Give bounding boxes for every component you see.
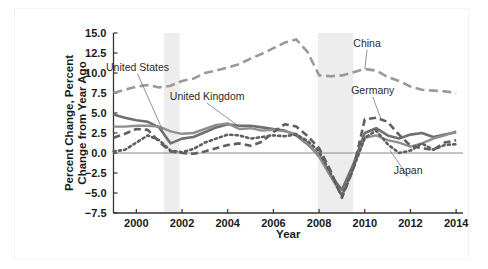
chart-figure: 15.012.510.07.55.02.50.0−2.5−5.0−7.5 200… <box>0 0 488 269</box>
x-tick-label: 2014 <box>444 217 469 229</box>
annotation-united-kingdom: United Kingdom <box>170 90 245 102</box>
x-tick-label: 2002 <box>170 217 194 229</box>
y-tick-label: 5.0 <box>91 107 106 119</box>
y-tick-label: 7.5 <box>91 87 106 99</box>
annotation-china: China <box>353 37 381 49</box>
y-axis-title: Percent Change, Percent <box>63 55 75 191</box>
recession-bands <box>164 33 354 213</box>
y-tick-label: 15.0 <box>85 27 106 39</box>
y-tick-labels: 15.012.510.07.55.02.50.0−2.5−5.0−7.5 <box>85 27 107 219</box>
y-tick-label: −2.5 <box>85 167 107 179</box>
annotation-united-states: United States <box>106 61 169 73</box>
x-tick-label: 2008 <box>307 217 331 229</box>
x-tick-label: 2012 <box>398 217 422 229</box>
x-axis-title: Year <box>276 228 301 240</box>
leader-line-china <box>365 50 367 69</box>
y-tick-label: 2.5 <box>91 127 106 139</box>
line-chart: 15.012.510.07.55.02.50.0−2.5−5.0−7.5 200… <box>0 0 488 269</box>
y-tick-label: −7.5 <box>85 207 107 219</box>
x-tick-label: 2000 <box>124 217 148 229</box>
leader-line-germany <box>373 97 381 119</box>
x-tick-label: 2010 <box>353 217 377 229</box>
series-annotations: United StatesUnited KingdomChinaGermanyJ… <box>106 37 423 177</box>
annotation-germany: Germany <box>351 84 395 96</box>
y-tick-label: 10.0 <box>85 67 106 79</box>
y-axis-title: Change from Year Ago <box>76 61 88 184</box>
x-tick-label: 2004 <box>215 217 240 229</box>
y-tick-label: 0.0 <box>91 147 106 159</box>
y-tick-label: −5.0 <box>85 187 107 199</box>
annotation-japan: Japan <box>394 164 423 176</box>
y-tick-label: 12.5 <box>85 47 106 59</box>
